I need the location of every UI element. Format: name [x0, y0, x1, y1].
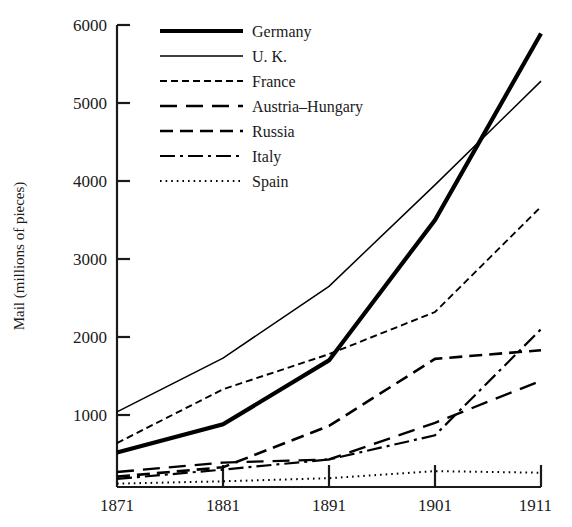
legend-item-germany[interactable]: Germany [160, 23, 312, 41]
legend-item-spain[interactable]: Spain [160, 173, 288, 191]
legend-label: Austria–Hungary [252, 98, 363, 116]
legend-label: Italy [252, 148, 281, 166]
mail-volume-line-chart: 1000200030004000500060001871188118911901… [0, 0, 572, 527]
x-axis-tick-label: 1871 [100, 496, 134, 515]
series-line-italy [117, 329, 541, 479]
legend: GermanyU. K.FranceAustria–HungaryRussiaI… [160, 23, 363, 191]
x-axis-tick-label: 1891 [312, 496, 346, 515]
y-axis-tick-label: 4000 [73, 172, 107, 191]
y-axis-title: Mail (millions of pieces) [11, 182, 28, 331]
series-line-germany [117, 34, 541, 453]
legend-label: Russia [252, 123, 295, 140]
x-axis-tick-label: 1911 [519, 496, 552, 515]
y-axis-tick-label: 1000 [73, 406, 107, 425]
y-axis-tick-label: 5000 [73, 94, 107, 113]
y-axis-tick-label: 3000 [73, 250, 107, 269]
legend-item-austria-hungary[interactable]: Austria–Hungary [160, 98, 363, 116]
axes: 1000200030004000500060001871188118911901… [11, 16, 552, 515]
legend-label: U. K. [252, 48, 287, 65]
series-line-france [117, 207, 541, 443]
series-line-russia [117, 350, 541, 476]
legend-label: France [252, 73, 296, 90]
legend-label: Germany [252, 23, 312, 41]
legend-label: Spain [252, 173, 288, 191]
legend-item-italy[interactable]: Italy [160, 148, 281, 166]
legend-item-u-k[interactable]: U. K. [160, 48, 287, 65]
y-axis-tick-label: 2000 [73, 328, 107, 347]
chart-canvas: 1000200030004000500060001871188118911901… [0, 0, 572, 527]
legend-item-france[interactable]: France [160, 73, 296, 90]
x-axis-tick-label: 1881 [206, 496, 240, 515]
x-axis-tick-label: 1901 [418, 496, 452, 515]
y-axis-tick-label: 6000 [73, 16, 107, 35]
legend-item-russia[interactable]: Russia [160, 123, 295, 140]
